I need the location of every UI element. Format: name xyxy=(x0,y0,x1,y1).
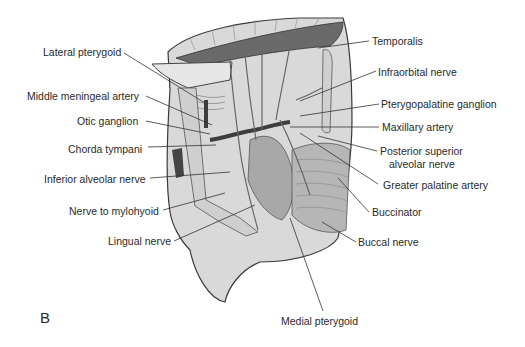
buccinator-muscle xyxy=(292,143,350,232)
anatomy-figure: Lateral pterygoid Middle meningeal arter… xyxy=(0,0,525,347)
panel-letter: B xyxy=(40,309,50,326)
label-lingual-nerve: Lingual nerve xyxy=(108,235,171,247)
label-nerve-to-mylohyoid: Nerve to mylohyoid xyxy=(69,205,159,217)
label-otic-ganglion: Otic ganglion xyxy=(77,115,138,127)
label-temporalis: Temporalis xyxy=(372,35,423,47)
label-inferior-alveolar-nerve: Inferior alveolar nerve xyxy=(44,173,146,185)
label-middle-meningeal-artery: Middle meningeal artery xyxy=(27,90,139,102)
label-lateral-pterygoid: Lateral pterygoid xyxy=(43,46,121,58)
label-greater-palatine-artery: Greater palatine artery xyxy=(383,179,488,191)
label-medial-pterygoid: Medial pterygoid xyxy=(281,315,358,327)
label-maxillary-artery: Maxillary artery xyxy=(382,121,453,133)
label-posterior-superior-line1: Posterior superior xyxy=(380,145,463,157)
label-buccinator: Buccinator xyxy=(372,206,422,218)
label-buccal-nerve: Buccal nerve xyxy=(358,236,419,248)
label-infraorbital-nerve: Infraorbital nerve xyxy=(378,66,457,78)
label-chorda-tympani: Chorda tympani xyxy=(68,143,142,155)
label-posterior-superior-line2: alveolar nerve xyxy=(389,158,455,170)
infraorbital-strip xyxy=(322,50,332,133)
label-pterygopalatine-ganglion: Pterygopalatine ganglion xyxy=(381,98,497,110)
